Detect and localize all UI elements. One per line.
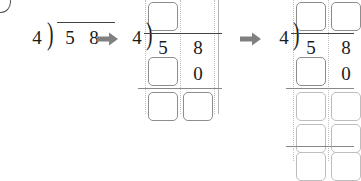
stage3-subtract-digit: 0 (338, 64, 354, 83)
stage3-quotient-box-tens[interactable] (296, 2, 326, 31)
stage1-dividend-tens: 5 (62, 28, 78, 47)
stage3-remainder-box-r1-c1[interactable] (296, 92, 326, 121)
stage2-vinculum (144, 33, 222, 34)
stage2-subtraction-rule (138, 88, 222, 89)
stage3-remainder-box-r2-c2[interactable] (331, 124, 361, 153)
stage2-remainder-box-1[interactable] (148, 92, 178, 121)
stage3-dividend-tens: 5 (303, 38, 319, 57)
corner-circled-marker (0, 0, 11, 13)
stage2-right-rule (218, 0, 219, 114)
stage3-remainder-box-r2-c1[interactable] (296, 124, 326, 153)
stage1-divisor: 4 (30, 28, 44, 47)
stage3-final-box-1[interactable] (296, 152, 326, 181)
stage3-remainder-box-r1-c2[interactable] (331, 92, 361, 121)
stage2-dividend-tens: 5 (155, 38, 171, 57)
stage3-divisor: 4 (277, 28, 291, 47)
stage3-subtraction-rule-2 (286, 146, 354, 147)
stage2-guide-mid (180, 0, 181, 114)
stage3-dividend-ones: 8 (338, 38, 354, 57)
stage2-subtract-digit: 0 (190, 64, 206, 83)
stage3-guide-mid (328, 0, 329, 161)
stage1-vinculum (57, 22, 115, 23)
stage3-quotient-box-ones[interactable] (331, 2, 361, 31)
stage3-final-box-2[interactable] (331, 152, 361, 181)
stage2-guide-right (214, 0, 215, 114)
stage2-subtract-box[interactable] (148, 57, 178, 86)
right-arrow-icon-2 (240, 31, 262, 47)
stage3-subtract-box[interactable] (296, 57, 326, 86)
stage3-vinculum (291, 33, 354, 34)
stage1-division-bracket: ) (47, 20, 54, 51)
stage2-remainder-box-2[interactable] (183, 92, 213, 121)
right-arrow-icon-1 (97, 31, 119, 47)
stage2-division-bracket: ) (146, 20, 153, 51)
stage2-dividend-ones: 8 (190, 38, 206, 57)
stage3-division-bracket: ) (293, 20, 300, 51)
stage3-subtraction-rule-1 (286, 88, 354, 89)
stage2-divisor: 4 (130, 28, 144, 47)
